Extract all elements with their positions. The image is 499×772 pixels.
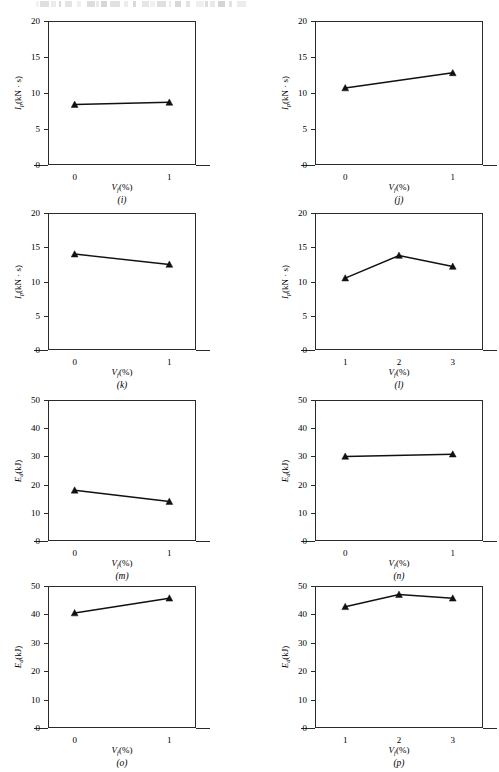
chart-panel-p: 01020304050123Ed(kJ)Vf(%)(p) — [0, 0, 499, 772]
figure-panel-grid: 0510152001Ip(kN · s)Vf(%)(i)0510152001Ip… — [0, 0, 499, 772]
data-series-line — [0, 0, 499, 772]
